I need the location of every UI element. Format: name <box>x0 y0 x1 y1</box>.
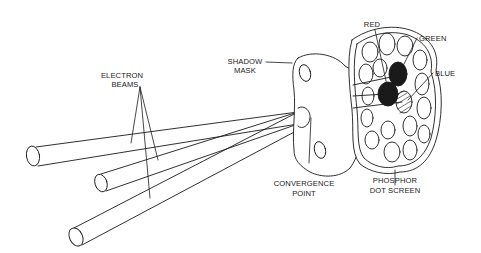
svg-text:BEAMS: BEAMS <box>111 80 138 89</box>
phosphor-dot-screen <box>349 27 441 173</box>
svg-text:ELECTRON: ELECTRON <box>101 71 143 80</box>
svg-text:DOT SCREEN: DOT SCREEN <box>370 186 421 195</box>
label-red: RED <box>364 20 381 29</box>
label-electron-beams: ELECTRON BEAMS <box>101 71 143 89</box>
label-green: GREEN <box>419 34 447 43</box>
svg-text:POINT: POINT <box>292 189 316 198</box>
svg-text:CONVERGENCE: CONVERGENCE <box>274 179 335 188</box>
label-blue: BLUE <box>435 69 455 78</box>
label-shadow-mask: SHADOW MASK <box>228 57 264 75</box>
svg-text:MASK: MASK <box>234 66 256 75</box>
electron-beam-1 <box>25 112 298 167</box>
svg-text:SHADOW: SHADOW <box>228 57 264 66</box>
label-phosphor-dot-screen: PHOSPHOR DOT SCREEN <box>370 176 421 195</box>
electron-beam-2 <box>93 112 298 193</box>
svg-text:PHOSPHOR: PHOSPHOR <box>373 176 418 185</box>
crt-shadow-mask-diagram: ELECTRON BEAMS SHADOW MASK CONVERGENCE P… <box>0 0 481 253</box>
label-convergence-point: CONVERGENCE POINT <box>274 179 335 198</box>
